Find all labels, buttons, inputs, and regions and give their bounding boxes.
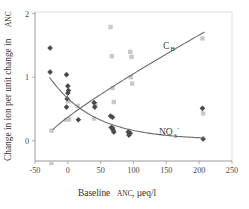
data-point [110,54,114,58]
cb-label-subscript: B [171,45,176,52]
x-axis-title-smallcaps: ANC [117,189,133,198]
data-point [128,50,132,54]
data-point [201,111,205,115]
y-axis-title-smallcaps: ANC [4,11,13,27]
no3-label-superscript: - [177,124,179,131]
y-axis-ticks [32,14,35,141]
data-point [108,25,112,29]
series-label-no3: NO 3 - [159,124,179,139]
x-tick-label: 150 [160,166,172,175]
x-axis-title-main: Baseline [78,188,110,198]
data-point [49,161,53,165]
data-point [112,100,116,104]
data-point [129,55,133,59]
x-axis-title-units: , µeq/l [132,188,157,198]
x-tick-label: 250 [226,166,238,175]
y-tick-label: 0 [25,137,29,146]
x-axis-title: Baseline ANC , µeq/l [78,188,157,198]
data-point [130,81,134,85]
x-tick-label: -50 [30,166,41,175]
x-tick-label: 100 [127,166,139,175]
y-axis-title: Change in ion per unit change in ANC [3,11,13,161]
x-tick-label: 50 [97,166,105,175]
scatter-chart: 2 1 0 -50 0 50 100 150 200 250 C B [0,0,249,209]
no3-label-main: NO [159,127,173,137]
cb-label-main: C [163,41,169,51]
x-tick-label: 200 [193,166,205,175]
x-tick-label: 0 [66,166,70,175]
x-axis-ticks [35,161,232,164]
y-tick-label: 2 [25,10,29,19]
y-tick-label: 1 [25,73,29,82]
y-axis-title-main: Change in ion per unit change in [3,38,13,161]
data-point [200,36,204,40]
chart-figure: 2 1 0 -50 0 50 100 150 200 250 C B [0,0,249,209]
